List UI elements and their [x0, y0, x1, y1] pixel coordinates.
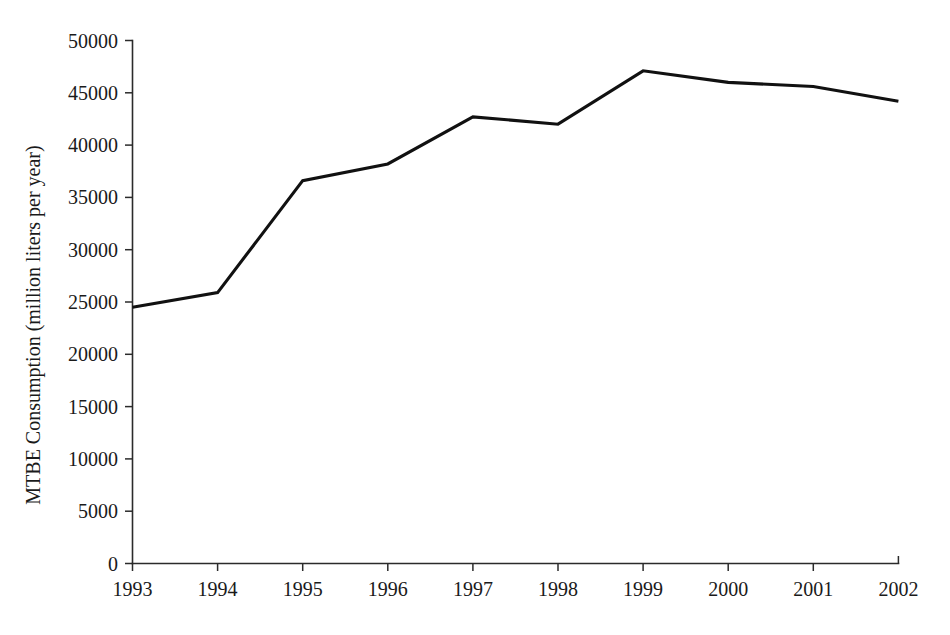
x-tick-label-1993: 1993	[113, 578, 153, 600]
line-chart: MTBE Consumption (million liters per yea…	[0, 0, 950, 635]
y-axis-title: MTBE Consumption (million liters per yea…	[22, 145, 45, 504]
y-tick-label-20000: 20000	[68, 343, 118, 365]
y-tick-label-15000: 15000	[68, 396, 118, 418]
y-tick-label-25000: 25000	[68, 291, 118, 313]
x-tick-label-2000: 2000	[708, 578, 748, 600]
y-axis-tick-labels: 0 5000 10000 15000 20000 25000 30000 350…	[68, 30, 118, 575]
data-series-line	[133, 71, 899, 307]
y-tick-label-45000: 45000	[68, 82, 118, 104]
y-tick-label-40000: 40000	[68, 134, 118, 156]
x-tick-label-1995: 1995	[283, 578, 323, 600]
chart-page: MTBE Consumption (million liters per yea…	[0, 0, 950, 635]
x-tick-label-1998: 1998	[538, 578, 578, 600]
y-tick-label-10000: 10000	[68, 448, 118, 470]
y-axis-ticks	[125, 41, 133, 564]
y-tick-label-35000: 35000	[68, 186, 118, 208]
x-tick-label-1994: 1994	[198, 578, 238, 600]
y-tick-label-0: 0	[108, 553, 118, 575]
x-tick-label-2002: 2002	[878, 578, 918, 600]
y-tick-label-30000: 30000	[68, 239, 118, 261]
y-tick-label-50000: 50000	[68, 30, 118, 52]
x-tick-label-1997: 1997	[453, 578, 493, 600]
x-tick-label-1999: 1999	[623, 578, 663, 600]
x-axis-tick-labels: 1993 1994 1995 1996 1997 1998 1999 2000 …	[113, 578, 919, 600]
y-tick-label-5000: 5000	[78, 500, 118, 522]
x-tick-label-2001: 2001	[793, 578, 833, 600]
x-tick-label-1996: 1996	[368, 578, 408, 600]
